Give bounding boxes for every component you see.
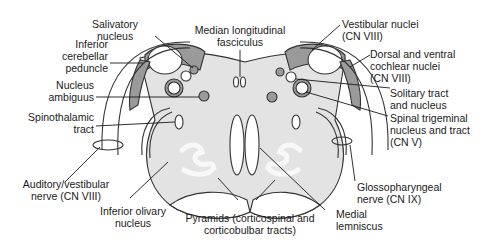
solitary-right — [286, 72, 296, 82]
label-line: Solitary tract — [390, 87, 448, 99]
label-line: nucleus and tract — [390, 124, 470, 136]
ambiguus-right — [267, 92, 277, 102]
label-vestibular-nuclei: Vestibular nuclei (CN VIII) — [342, 18, 418, 42]
icp-left — [148, 46, 182, 74]
mlf-left — [234, 77, 239, 87]
label-median-longitudinal-fasciculus: Median longitudinal fasciculus — [185, 24, 295, 48]
label-inferior-olivary-nucleus: Inferior olivary nucleus — [93, 205, 173, 229]
label-line: Inferior — [40, 38, 108, 50]
solitary-left — [181, 71, 191, 81]
label-line: nucleus — [93, 217, 173, 229]
label-line: nerve (CN VIII) — [20, 190, 112, 202]
salivatory-right — [276, 68, 284, 76]
icp-right — [308, 46, 342, 74]
label-auditory-vestibular-nerve: Auditory/vestibular nerve (CN VIII) — [20, 178, 112, 202]
medial-lemniscus-left — [230, 115, 244, 175]
label-line: cerebellar — [40, 50, 108, 62]
label-line: ambiguus — [30, 91, 94, 103]
label-line: Spinal trigeminal — [390, 112, 470, 124]
label-pyramids: Pyramids (corticospinal and corticobulba… — [175, 212, 325, 236]
label-line: (CN VIII) — [370, 72, 455, 84]
label-line: and nucleus — [390, 99, 448, 111]
label-line: peduncle — [40, 62, 108, 74]
medulla-diagram: Salivatory nucleus Inferior cerebellar p… — [0, 0, 491, 248]
label-line: tract — [10, 123, 94, 135]
label-line: Glossopharyngeal — [357, 181, 442, 193]
medial-lemniscus-right — [245, 115, 259, 175]
label-line: (CN V) — [390, 136, 470, 148]
spinothalamic-left — [175, 115, 183, 129]
label-line: cochlear nuclei — [370, 60, 455, 72]
cn8-nerve-loop — [93, 140, 123, 150]
label-line: Spinothalamic — [10, 111, 94, 123]
label-line: Salivatory — [92, 18, 138, 30]
label-nucleus-ambiguus: Nucleus ambiguus — [30, 79, 94, 103]
label-solitary-tract: Solitary tract and nucleus — [390, 87, 448, 111]
salivatory-left — [190, 66, 198, 74]
label-line: Auditory/vestibular — [20, 178, 112, 190]
spinothalamic-right — [292, 115, 300, 129]
label-cochlear-nuclei: Dorsal and ventral cochlear nuclei (CN V… — [370, 48, 455, 84]
label-spinal-trigeminal: Spinal trigeminal nucleus and tract (CN … — [390, 112, 470, 148]
label-spinothalamic-tract: Spinothalamic tract — [10, 111, 94, 135]
label-glossopharyngeal-nerve: Glossopharyngeal nerve (CN IX) — [357, 181, 442, 205]
mlf-right — [241, 77, 246, 87]
label-inferior-cerebellar-peduncle: Inferior cerebellar peduncle — [40, 38, 108, 74]
label-line: Dorsal and ventral — [370, 48, 455, 60]
label-line: Pyramids (corticospinal and — [175, 212, 325, 224]
ambiguus-left — [199, 91, 209, 101]
label-line: Median longitudinal — [185, 24, 295, 36]
label-line: Medial — [336, 208, 383, 220]
label-line: fasciculus — [185, 36, 295, 48]
label-line: nerve (CN IX) — [357, 193, 442, 205]
label-line: Vestibular nuclei — [342, 18, 418, 30]
label-line: Inferior olivary — [93, 205, 173, 217]
label-medial-lemniscus: Medial lemniscus — [336, 208, 383, 232]
label-line: lemniscus — [336, 220, 383, 232]
label-line: (CN VIII) — [342, 30, 418, 42]
label-line: Nucleus — [30, 79, 94, 91]
label-line: corticobulbar tracts) — [175, 224, 325, 236]
